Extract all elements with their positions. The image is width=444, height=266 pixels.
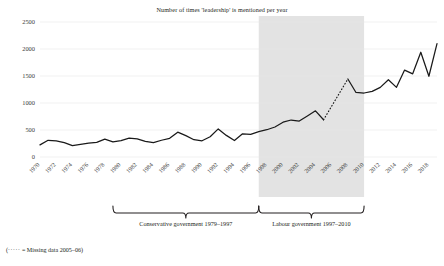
svg-text:1980: 1980 xyxy=(109,161,122,174)
data-line xyxy=(40,44,437,146)
svg-text:1996: 1996 xyxy=(238,161,251,174)
svg-text:1976: 1976 xyxy=(76,161,89,174)
y-axis-ticks: 05001000150020002500 xyxy=(22,18,35,160)
svg-text:1982: 1982 xyxy=(125,161,138,174)
svg-text:1500: 1500 xyxy=(22,72,35,79)
footnote-text: = Missing data 2005–06) xyxy=(20,247,83,253)
svg-text:2016: 2016 xyxy=(401,161,414,174)
svg-text:2500: 2500 xyxy=(22,18,35,25)
svg-text:1974: 1974 xyxy=(60,161,73,174)
dotted-line-sample: ····· xyxy=(8,247,20,253)
conservative-bracket-label: Conservative government 1979–1997 xyxy=(139,220,232,227)
labour-bracket-label: Labour government 1997–2010 xyxy=(272,220,350,227)
period-brackets xyxy=(113,206,364,218)
chart-svg: 05001000150020002500 1970197219741976197… xyxy=(0,0,444,266)
svg-text:2012: 2012 xyxy=(368,161,381,174)
svg-text:1978: 1978 xyxy=(93,161,106,174)
svg-text:2014: 2014 xyxy=(384,161,397,174)
svg-text:0: 0 xyxy=(32,153,35,160)
svg-text:1984: 1984 xyxy=(141,161,154,174)
chart-figure: Number of times 'leadership' is mentione… xyxy=(0,0,444,266)
svg-text:1992: 1992 xyxy=(206,161,219,174)
svg-text:1000: 1000 xyxy=(22,99,35,106)
svg-text:1970: 1970 xyxy=(28,161,41,174)
x-axis-ticks: 1970197219741976197819801982198419861988… xyxy=(28,161,430,174)
svg-text:2000: 2000 xyxy=(22,45,35,52)
period-bracket-labels: Conservative government 1979–1997Labour … xyxy=(139,220,350,227)
svg-text:1986: 1986 xyxy=(157,161,170,174)
svg-text:1972: 1972 xyxy=(44,161,57,174)
svg-text:1994: 1994 xyxy=(222,161,235,174)
svg-text:500: 500 xyxy=(25,126,35,133)
svg-text:1990: 1990 xyxy=(190,161,203,174)
missing-data-footnote: (····· = Missing data 2005–06) xyxy=(6,247,83,253)
svg-text:1988: 1988 xyxy=(174,161,187,174)
svg-text:2018: 2018 xyxy=(417,161,430,174)
